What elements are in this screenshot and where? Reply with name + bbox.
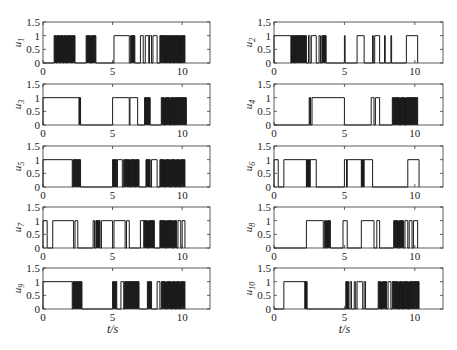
x-tick-label: 10 [409,250,421,262]
y-axis-label: u4 [242,100,257,110]
y-tick-label: 0.5 [26,289,40,301]
subplot-u9: 00.511.50510u9 [11,262,210,323]
y-axis-label: u6 [242,162,257,172]
y-tick-label: 1 [266,30,272,42]
signal-line [274,160,419,187]
y-axis-label: u7 [11,222,26,233]
x-tick-label: 5 [110,250,116,262]
x-tick-label: 10 [409,311,421,323]
figure-canvas: 00.511.50510u100.511.50510u200.511.50510… [0,0,457,350]
y-tick-label: 1.5 [26,201,40,213]
y-tick-label: 0.5 [26,43,40,55]
subplot-u8: 00.511.50510u8 [242,201,443,262]
dense-switching-region [73,160,81,187]
x-tick-label: 0 [40,311,46,323]
subplot-u5: 00.511.50510u5 [11,140,210,201]
y-tick-label: 1 [266,215,272,227]
x-tick-label: 10 [409,189,421,201]
dense-switching-region [124,160,139,187]
x-axis-label: t/s [339,322,351,336]
dense-switching-region [146,160,150,187]
y-tick-label: 1 [266,276,272,288]
dense-switching-region [161,282,185,309]
x-tick-label: 0 [271,250,277,262]
x-tick-label: 0 [271,311,277,323]
y-tick-label: 1.5 [26,78,40,90]
x-tick-label: 0 [271,65,277,77]
x-tick-label: 5 [342,189,348,201]
y-tick-label: 0.5 [257,167,271,179]
y-axis-label: u2 [242,38,257,48]
x-tick-label: 5 [110,127,116,139]
x-tick-label: 10 [409,127,421,139]
y-axis-label: u9 [11,284,26,294]
dense-switching-region [73,282,82,309]
subplot-u6: 00.511.50510u6 [242,140,443,201]
axes-box [274,146,443,187]
y-tick-label: 0.5 [26,228,40,240]
x-tick-label: 10 [409,65,421,77]
dense-switching-region [147,282,151,309]
y-tick-label: 1.5 [26,140,40,152]
y-axis-label: u1 [11,38,26,48]
x-tick-label: 0 [40,189,46,201]
dense-switching-region [145,98,151,125]
y-tick-label: 1.5 [257,140,271,152]
y-tick-label: 0.5 [257,228,271,240]
x-tick-label: 5 [110,65,116,77]
y-tick-label: 1 [35,92,41,104]
y-tick-label: 1.5 [257,78,271,90]
subplot-u1: 00.511.50510u1 [11,16,210,77]
dense-switching-region [394,221,404,248]
y-tick-label: 1 [35,215,41,227]
x-tick-label: 5 [342,65,348,77]
dense-switching-region [392,282,419,309]
subplot-u10: 00.511.50510u10 [242,262,443,323]
dense-switching-region [124,282,139,309]
subplot-u4: 00.511.50510u4 [242,78,443,139]
dense-switching-region [291,36,306,63]
x-tick-label: 0 [40,127,46,139]
y-tick-label: 0.5 [257,289,271,301]
dense-switching-region [96,221,100,248]
y-tick-label: 1 [35,154,41,166]
y-axis-label: u10 [242,282,257,296]
x-axis-label: t/s [107,322,119,336]
x-tick-label: 0 [271,189,277,201]
dense-switching-region [113,160,117,187]
y-tick-label: 1.5 [257,201,271,213]
y-tick-label: 0.5 [26,105,40,117]
y-tick-label: 1.5 [26,16,40,28]
dense-switching-region [322,36,326,63]
y-tick-label: 1.5 [26,262,40,274]
y-tick-label: 1 [35,276,41,288]
y-tick-label: 1 [266,154,272,166]
y-tick-label: 1.5 [257,262,271,274]
y-axis-label: u3 [11,100,26,110]
x-tick-label: 5 [110,189,116,201]
x-tick-label: 0 [40,250,46,262]
x-tick-label: 10 [177,127,189,139]
x-tick-label: 10 [177,311,189,323]
y-tick-label: 1.5 [257,16,271,28]
dense-switching-region [86,36,96,63]
signal-line [274,36,418,63]
subplot-u7: 00.511.50510u7 [11,201,210,262]
dense-switching-region [131,36,135,63]
x-tick-label: 10 [177,65,189,77]
y-tick-label: 1 [35,30,41,42]
x-tick-label: 0 [40,65,46,77]
y-axis-label: u8 [242,223,257,233]
x-tick-label: 10 [177,189,189,201]
y-tick-label: 0.5 [257,43,271,55]
y-tick-label: 1 [266,92,272,104]
y-tick-label: 0.5 [257,105,271,117]
y-axis-label: u5 [11,162,26,172]
x-tick-label: 0 [271,127,277,139]
subplot-u2: 00.511.50510u2 [242,16,443,77]
subplot-u3: 00.511.50510u3 [11,78,210,139]
x-tick-label: 10 [177,250,189,262]
x-tick-label: 5 [342,250,348,262]
x-tick-label: 5 [342,127,348,139]
dense-switching-region [113,282,117,309]
